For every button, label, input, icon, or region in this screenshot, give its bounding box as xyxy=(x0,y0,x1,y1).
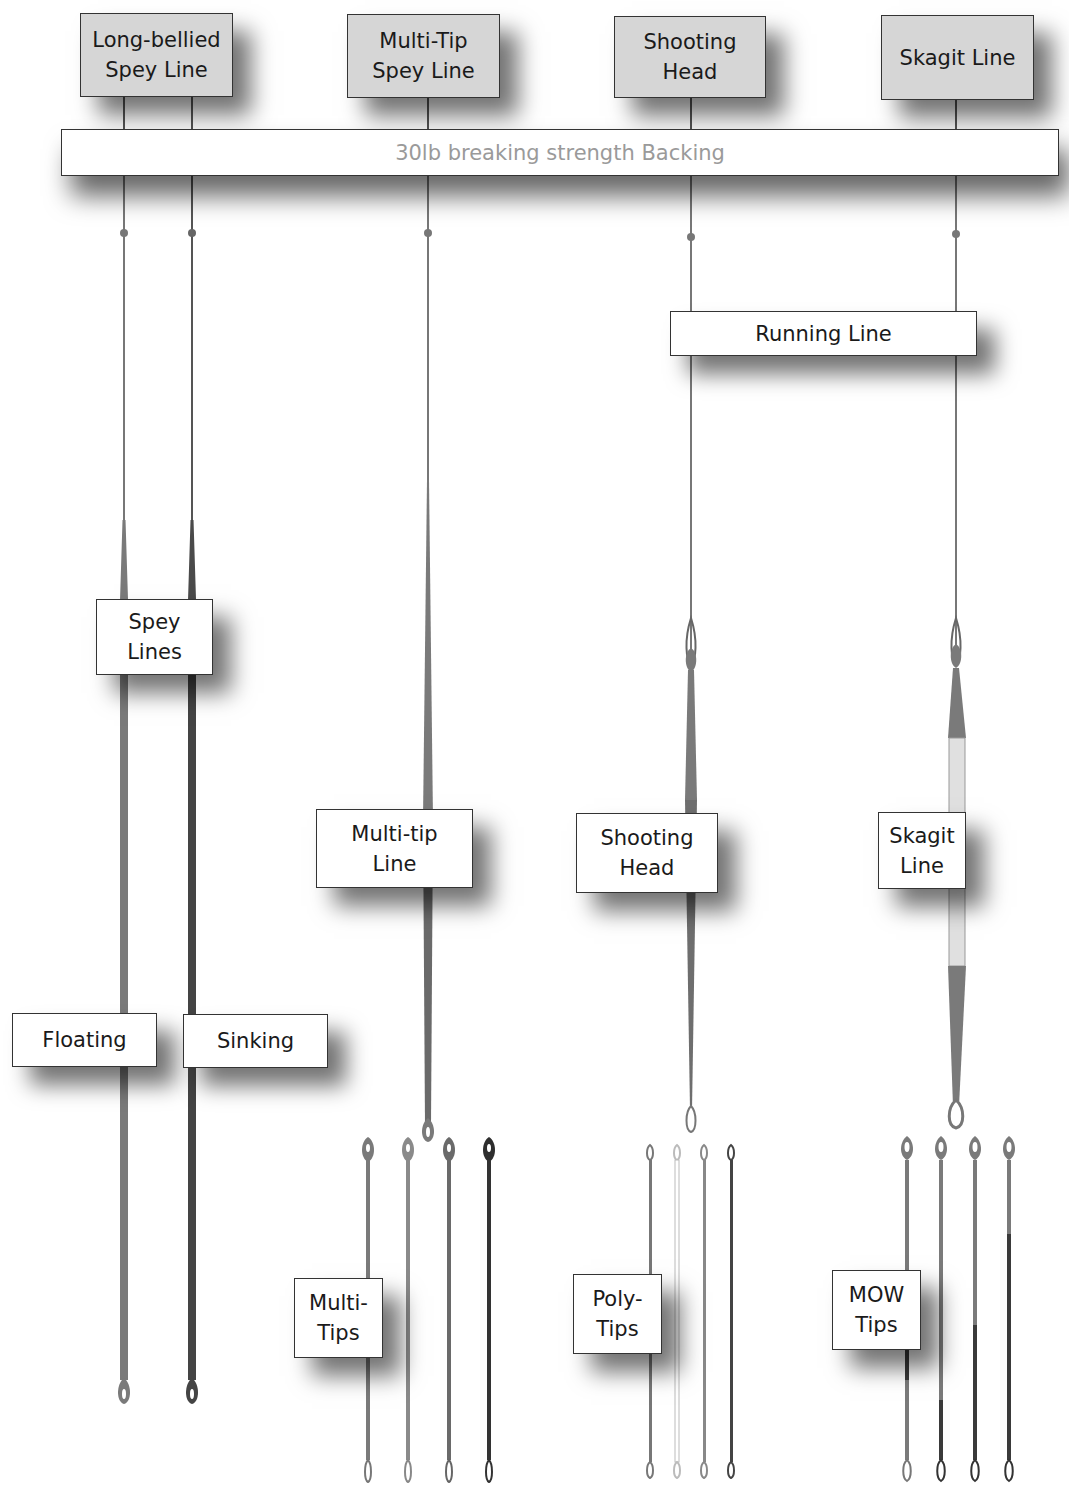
label-line: Sinking xyxy=(217,1026,294,1056)
label-line: Tips xyxy=(855,1310,897,1340)
poly-tip-4 xyxy=(728,1145,734,1478)
floating-spey-line xyxy=(118,176,130,1404)
label-line: Tips xyxy=(596,1314,638,1344)
label-line: Tips xyxy=(317,1318,359,1348)
label-line: Line xyxy=(900,851,944,881)
multi-tip-2 xyxy=(402,1137,414,1482)
multi-tips-label: Multi- Tips xyxy=(294,1278,383,1358)
label-line: Multi-tip xyxy=(351,819,437,849)
floating-label: Floating xyxy=(12,1013,157,1067)
running-line-text: Running Line xyxy=(755,319,892,349)
spey-lines-label: Spey Lines xyxy=(96,599,213,675)
label-line: Multi- xyxy=(309,1288,368,1318)
label-line: Floating xyxy=(42,1025,126,1055)
backing-bar: 30lb breaking strength Backing xyxy=(61,129,1059,176)
mow-tip-3 xyxy=(969,1136,981,1481)
mow-tip-4 xyxy=(1003,1136,1015,1481)
label-line: Shooting xyxy=(643,27,736,57)
poly-tip-2 xyxy=(674,1145,680,1478)
label-line: Spey Line xyxy=(372,56,474,86)
multi-tip-spey-line xyxy=(422,176,434,1142)
poly-tips-label: Poly- Tips xyxy=(573,1274,662,1354)
label-line: Shooting xyxy=(600,823,693,853)
label-line: Long-bellied xyxy=(92,25,220,55)
skagit-line-label: Skagit Line xyxy=(878,812,966,889)
label-line: Multi-Tip xyxy=(379,26,467,56)
header-shooting-head: Shooting Head xyxy=(614,16,766,98)
label-line: MOW xyxy=(849,1280,904,1310)
shooting-head-label: Shooting Head xyxy=(576,813,718,893)
label-line: Skagit Line xyxy=(900,43,1016,73)
sinking-label: Sinking xyxy=(183,1014,328,1068)
multi-tip-3 xyxy=(443,1137,455,1482)
running-line-label: Running Line xyxy=(670,311,977,356)
multi-tip-4 xyxy=(483,1137,495,1482)
label-line: Spey xyxy=(128,607,180,637)
header-connectors xyxy=(124,96,956,130)
label-line: Line xyxy=(373,849,417,879)
mow-tips-label: MOW Tips xyxy=(832,1270,921,1350)
poly-tip-3 xyxy=(701,1145,707,1478)
label-line: Lines xyxy=(127,637,182,667)
header-multi-tip-spey-line: Multi-Tip Spey Line xyxy=(347,14,500,98)
label-line: Skagit xyxy=(889,821,954,851)
label-line: Spey Line xyxy=(105,55,207,85)
header-skagit-line: Skagit Line xyxy=(881,15,1034,100)
label-line: Poly- xyxy=(592,1284,642,1314)
backing-label: 30lb breaking strength Backing xyxy=(395,138,725,168)
mow-tip-2 xyxy=(935,1136,947,1481)
header-long-bellied-spey-line: Long-bellied Spey Line xyxy=(80,13,233,97)
label-line: Head xyxy=(663,57,718,87)
label-line: Head xyxy=(620,853,675,883)
multi-tip-line-label: Multi-tip Line xyxy=(316,809,473,888)
sinking-spey-line xyxy=(186,176,198,1404)
